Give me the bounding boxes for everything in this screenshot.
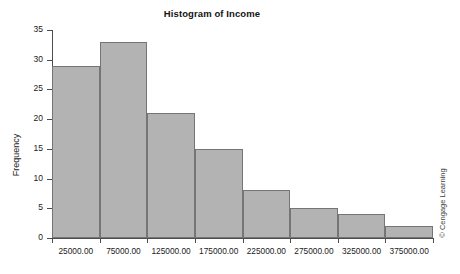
- y-tick-label: 30: [18, 55, 43, 65]
- copyright-credit-text: © Cengage Learning: [438, 168, 447, 237]
- x-tick-mark: [100, 238, 101, 243]
- x-tick-mark: [385, 238, 386, 243]
- x-tick-mark: [290, 238, 291, 243]
- histogram-bar: [290, 208, 338, 238]
- histogram-bar: [195, 149, 243, 238]
- y-tick-label: 5: [18, 203, 43, 213]
- histogram-bar: [243, 190, 291, 238]
- y-tick-label-text: 15: [19, 144, 43, 153]
- copyright-credit: © Cengage Learning: [434, 150, 450, 255]
- histogram-figure: Histogram of Income Frequency 0510152025…: [0, 0, 460, 274]
- chart-title: Histogram of Income: [52, 8, 372, 19]
- y-tick-label-text: 35: [19, 25, 43, 34]
- y-tick-label: 15: [18, 144, 43, 154]
- x-tick-mark: [52, 238, 53, 243]
- histogram-bar: [100, 42, 148, 238]
- y-tick-label-text: 20: [19, 114, 43, 123]
- y-axis-label-text: Frequency: [11, 134, 21, 177]
- y-tick-label: 35: [18, 25, 43, 35]
- y-tick-label-text: 10: [19, 174, 43, 183]
- y-tick-label: 25: [18, 84, 43, 94]
- x-tick-mark: [147, 238, 148, 243]
- y-tick-label: 20: [18, 114, 43, 124]
- histogram-bar: [385, 226, 433, 238]
- x-tick-mark: [243, 238, 244, 243]
- y-tick-label: 10: [18, 174, 43, 184]
- histogram-bar: [147, 113, 195, 238]
- x-tick-mark: [338, 238, 339, 243]
- histogram-bar: [52, 66, 100, 238]
- y-tick-label-text: 25: [19, 84, 43, 93]
- x-tick-mark: [195, 238, 196, 243]
- y-tick-label-text: 0: [19, 233, 43, 242]
- y-tick-label: 0: [18, 233, 43, 243]
- plot-area: [52, 30, 433, 238]
- y-tick-label-text: 5: [19, 203, 43, 212]
- histogram-bar: [338, 214, 386, 238]
- y-tick-label-text: 30: [19, 55, 43, 64]
